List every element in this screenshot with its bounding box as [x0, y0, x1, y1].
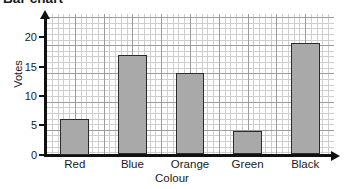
bar-chart-figure: Bar chart Votes Colour 05101520 RedBlueO… — [0, 0, 344, 189]
bar-blue — [118, 55, 147, 155]
x-axis-category-label: Red — [64, 158, 85, 170]
y-axis-tick-label: 5 — [31, 119, 37, 131]
y-axis-tick — [39, 124, 45, 126]
y-axis-tick-label: 10 — [25, 90, 37, 102]
x-axis-category-label: Orange — [171, 158, 209, 170]
y-axis-tick — [39, 66, 45, 68]
x-axis-category-label: Blue — [121, 158, 144, 170]
x-axis-category-label: Black — [291, 158, 319, 170]
bar-orange — [176, 73, 205, 155]
y-axis-tick — [39, 36, 45, 38]
x-axis-arrow-icon — [331, 151, 340, 161]
bar-red — [60, 119, 89, 154]
y-axis-title: Votes — [12, 44, 24, 104]
bar-green — [233, 131, 262, 154]
y-axis-arrow-icon — [40, 10, 50, 19]
y-axis-tick-label: 0 — [31, 149, 37, 161]
y-axis-tick — [39, 154, 45, 156]
x-axis-category-label: Green — [232, 158, 264, 170]
y-axis-tick-label: 20 — [25, 31, 37, 43]
x-axis-title: Colour — [0, 172, 344, 184]
chart-title: Bar chart — [3, 0, 63, 6]
y-axis-tick-label: 15 — [25, 61, 37, 73]
bar-black — [291, 43, 320, 154]
y-axis-tick — [39, 95, 45, 97]
